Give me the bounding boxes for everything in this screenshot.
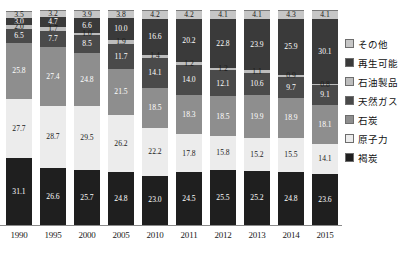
bar-segment: 4.2 [176,10,202,19]
bar-segment-value: 30.1 [318,48,331,56]
bar-segment: 18.5 [142,88,168,128]
bar-column: 3.96.61.08.524.829.525.7 [74,10,100,225]
bar-segment-value: 20.2 [182,37,195,45]
x-axis-tick-label: 2014 [278,230,304,240]
x-axis-tick-label: 2010 [142,230,168,240]
bar-segment: 11.7 [108,44,134,69]
bar-segment-value: 26.6 [46,193,59,201]
legend-item[interactable]: 原子力 [342,129,412,148]
bar-segment-value: 18.1 [318,121,331,129]
bar-segment-value: 9.1 [320,91,330,99]
bar-segment-value: 24.8 [114,195,127,203]
bar-segment-value: 0.8 [320,81,330,89]
bar-segment-value: 29.5 [80,134,93,142]
bar-segment-value: 2.0 [14,23,24,31]
bar-column: 3.24.71.77.727.428.726.6 [40,10,66,225]
bar-segment-value: 22.8 [216,40,229,48]
legend-item[interactable]: 石油製品 [342,72,412,91]
bar-segment: 25.8 [6,43,32,98]
bar-segment: 23.9 [244,19,270,70]
x-axis-line [0,225,342,226]
bar-segment-value: 23.9 [250,41,263,49]
x-axis-tick-label: 2015 [312,230,338,240]
x-axis-tick-label: 2005 [108,230,134,240]
legend-swatch-icon [345,115,354,124]
bar-segment: 4.3 [278,10,304,19]
bar-column: 4.325.90.99.718.915.524.8 [278,10,304,225]
legend-item-label: 石油製品 [358,75,398,89]
bar-segment-value: 25.8 [12,67,25,75]
bar-segment: 20.2 [176,19,202,62]
bar-segment: 19.9 [244,95,270,138]
bar-segment-value: 14.0 [182,76,195,84]
legend-item[interactable]: その他 [342,34,412,53]
bar-segment-value: 16.6 [148,33,161,41]
bar-segment: 18.9 [278,98,304,139]
bar-segment-value: 23.6 [318,196,331,204]
bar-column: 4.216.61.414.118.522.223.0 [142,10,168,225]
bar-segment: 25.5 [210,170,236,225]
bar-segment-value: 25.7 [80,194,93,202]
bar-segment: 26.6 [40,168,66,225]
bar-segment-value: 1.9 [116,38,126,46]
bar-segment-value: 22.2 [148,148,161,156]
bar-segment-value: 31.1 [12,188,25,196]
bar-segment: 12.1 [210,70,236,96]
bar-segment: 15.2 [244,138,270,171]
bar-segment: 4.1 [312,10,338,19]
stacked-bar-chart: 3.53.02.06.525.827.731.13.24.71.77.727.4… [0,0,412,256]
bar-segment-value: 25.2 [250,194,263,202]
bar-segment: 14.1 [142,58,168,88]
bar-segment: 22.8 [210,19,236,68]
bar-segment-value: 10.0 [114,25,127,33]
legend-item-label: 褐炭 [358,151,378,165]
legend-item-label: 天然ガス [358,94,398,108]
legend-swatch-icon [345,58,354,67]
bar-segment: 3.8 [108,10,134,18]
legend-item[interactable]: 石炭 [342,110,412,129]
legend-item-label: その他 [358,37,388,51]
bar-segment-value: 19.9 [250,113,263,121]
bar-segment: 29.5 [74,106,100,169]
bar-segment: 6.5 [6,29,32,43]
bar-segment: 31.1 [6,158,32,225]
bar-segment-value: 10.6 [250,80,263,88]
bar-segment: 23.6 [312,174,338,225]
bar-segment: 7.7 [40,31,66,48]
legend-item[interactable]: 褐炭 [342,148,412,167]
bar-segment: 10.6 [244,73,270,96]
bar-segment-value: 1.0 [82,30,92,38]
bar-segment: 21.5 [108,69,134,115]
legend-item[interactable]: 再生可能 [342,53,412,72]
bar-column: 3.810.01.911.721.526.224.8 [108,10,134,225]
bar-segment-value: 24.5 [182,195,195,203]
bar-segment-value: 25.9 [284,43,297,51]
legend-item[interactable]: 天然ガス [342,91,412,110]
bar-segment-value: 18.9 [284,114,297,122]
legend-item-label: 再生可能 [358,56,398,70]
bar-segment-value: 6.5 [14,32,24,40]
bar-segment-value: 4.1 [252,11,262,19]
plot-area: 3.53.02.06.525.827.731.13.24.71.77.727.4… [0,0,342,256]
x-axis-tick-label: 2012 [210,230,236,240]
bar-segment-value: 1.2 [184,60,194,68]
bar-segment: 9.7 [278,77,304,98]
bar-segment: 25.9 [278,19,304,75]
bar-segment-value: 0.9 [286,72,296,80]
bar-segment: 24.5 [176,172,202,225]
bar-segment: 3.2 [40,10,66,17]
bar-segment: 4.1 [244,10,270,19]
bar-segment-value: 11.7 [114,53,127,61]
chart-legend: その他再生可能石油製品天然ガス石炭原子力褐炭 [342,0,412,256]
bar-segment-value: 1.7 [48,25,58,33]
bar-segment: 17.8 [176,134,202,172]
x-axis-tick-label: 2000 [74,230,100,240]
bar-segment-value: 4.3 [286,11,296,19]
legend-swatch-icon [345,134,354,143]
bar-segment: 3.9 [74,10,100,18]
bar-segment-value: 25.5 [216,194,229,202]
bar-segment-value: 15.2 [250,151,263,159]
bar-segment-value: 9.7 [286,84,296,92]
bar-segment-value: 14.1 [318,155,331,163]
bar-column: 3.53.02.06.525.827.731.1 [6,10,32,225]
